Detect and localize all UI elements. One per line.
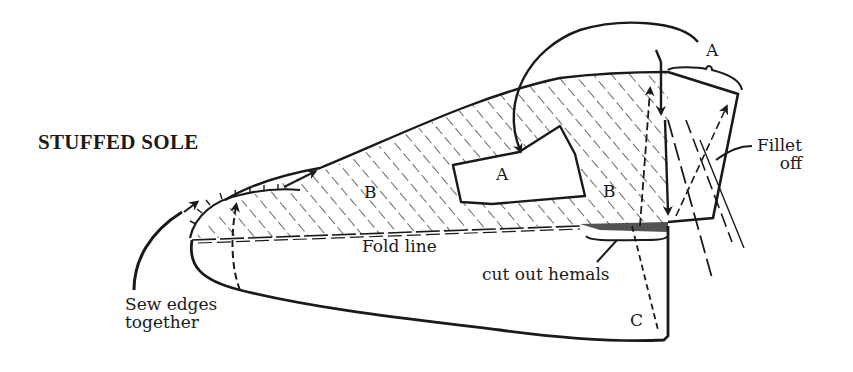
region-b-left-label: B [364, 184, 377, 202]
diagram-title: STUFFED SOLE [38, 131, 199, 153]
sew-edges-label: Sew edges together [125, 296, 217, 332]
fillet-line-2: off [757, 155, 802, 173]
sew-edges-pointer [134, 212, 182, 290]
cut-lines [668, 120, 744, 278]
fillet-pointer [716, 146, 752, 160]
a-brace [668, 66, 742, 90]
fillet-off-label: Fillet off [757, 137, 802, 173]
region-b-right-label: B [603, 183, 616, 201]
hatched-region-b [190, 72, 668, 238]
hemals-pointer [597, 240, 617, 262]
stuffed-sole-diagram: STUFFED SOLE Sew edges together Fold lin… [0, 0, 853, 372]
region-c-label: C [630, 312, 643, 330]
region-a-top-label: A [706, 42, 718, 60]
fold-line-label: Fold line [362, 238, 437, 256]
region-a-pocket-label: A [496, 166, 508, 184]
sew-edges-line-2: together [125, 314, 217, 332]
cut-out-hemals-label: cut out hemals [482, 266, 610, 284]
